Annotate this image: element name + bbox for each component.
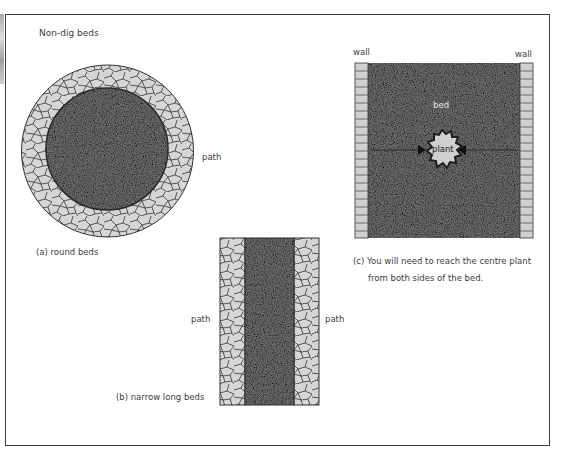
wall-left (355, 63, 368, 238)
round-bed-caption: (a) round beds (36, 247, 98, 257)
wall-body (355, 63, 368, 238)
long-bed-caption: (b) narrow long beds (116, 392, 204, 402)
wall-right (520, 63, 533, 238)
round-bed-diagram (22, 65, 194, 237)
wall-left-label: wall (353, 47, 370, 57)
wall-right-label: wall (515, 49, 532, 59)
long-bed-path-right (294, 238, 319, 405)
plant-label: plant (432, 144, 454, 154)
diagram-artwork (0, 0, 562, 464)
long-bed-path-right-label: path (325, 314, 344, 324)
long-bed-soil (245, 238, 294, 405)
long-bed-path-left-label: path (191, 314, 210, 324)
walled-caption-line2: from both sides of the bed. (368, 273, 483, 283)
walled-caption-line1: (c) You will need to reach the centre pl… (353, 256, 531, 266)
long-bed-diagram (220, 238, 319, 405)
round-path-label: path (202, 152, 221, 162)
figure-title: Non-dig beds (39, 28, 99, 38)
bed-label: bed (433, 100, 449, 110)
long-bed-path-left (220, 238, 245, 405)
wall-body (520, 63, 533, 238)
